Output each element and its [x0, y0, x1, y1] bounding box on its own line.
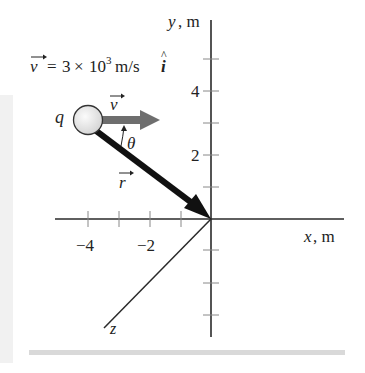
velocity-label: v [110, 94, 125, 115]
equation-times: × [74, 57, 84, 76]
y-tick-label-2: 2 [191, 146, 200, 165]
unit-vector-hat: ^ [161, 48, 167, 62]
equation-coefficient: 3 [62, 57, 71, 76]
angle-label: θ [127, 134, 135, 153]
z-axis-label: z [109, 320, 117, 337]
y-tick-label-4: 4 [191, 82, 200, 101]
x-axis-label-unit: , m [313, 227, 335, 246]
y-axis-label-variable: y [166, 12, 176, 31]
equation-base: 10 [89, 57, 106, 76]
svg-text:v: v [110, 95, 118, 114]
velocity-equation: v = 3 × 10 3 m/s i ^ [30, 48, 167, 76]
svg-text:r: r [119, 173, 126, 192]
equation-equals: = [47, 57, 57, 76]
equation-unit: m/s [115, 57, 140, 76]
velocity-vector-arrow [100, 110, 160, 130]
equation-exponent: 3 [106, 54, 112, 66]
charge-sphere [74, 106, 103, 135]
equation-vector-symbol: v [30, 57, 38, 76]
z-axis [104, 219, 211, 328]
x-tick-label-neg2: −2 [137, 236, 155, 255]
y-axis [203, 20, 219, 337]
charge-label: q [55, 107, 64, 127]
position-vector-arrow [95, 130, 211, 219]
coordinate-diagram: v = 3 × 10 3 m/s i ^ y , m 4 2 −4 −2 x ,… [0, 0, 365, 373]
y-axis-label-unit: , m [178, 12, 200, 31]
position-vector-label: r [119, 171, 134, 193]
x-tick-label-neg4: −4 [76, 236, 95, 255]
x-axis-label-variable: x [303, 227, 312, 246]
